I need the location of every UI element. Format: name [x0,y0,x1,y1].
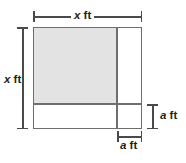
top-dimension-tick-left [33,11,35,22]
right-dimension-tick-bottom [147,128,158,130]
shaded-inner-rectangle [34,28,117,104]
bottom-dimension-line [117,136,142,138]
geometry-figure: x ft x ft a ft a ft [0,0,186,163]
right-dimension-unit: ft [170,109,178,121]
bottom-dimension-unit: ft [130,139,138,151]
top-dimension-label: x ft [71,10,94,22]
horizontal-divider-line [33,103,142,105]
vertical-divider-line [116,27,118,129]
left-dimension-unit: ft [14,73,22,85]
left-dimension-tick-bottom [17,128,28,130]
left-dimension-label: x ft [3,72,22,88]
right-dimension-label: a ft [160,110,177,122]
left-dimension-tick-top [17,27,28,29]
top-dimension-tick-right [141,11,143,22]
bottom-dimension-tick-right [141,131,143,142]
right-dimension-line [152,104,154,129]
bottom-dimension-tick-left [117,131,119,142]
right-dimension-tick-top [147,104,158,106]
bottom-dimension-label: a ft [120,140,137,152]
